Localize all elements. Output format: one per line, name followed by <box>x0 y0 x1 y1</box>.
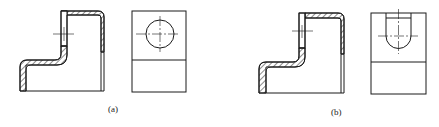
side-view-a <box>132 11 186 92</box>
section-view-b <box>259 13 344 93</box>
panel-b <box>259 9 426 94</box>
panel-a-label: (a) <box>108 104 118 114</box>
side-view-b <box>371 9 426 94</box>
panel-b-label: (b) <box>331 107 342 117</box>
panel-a <box>20 11 186 92</box>
technical-drawing <box>0 0 439 127</box>
section-view-a <box>20 11 104 91</box>
